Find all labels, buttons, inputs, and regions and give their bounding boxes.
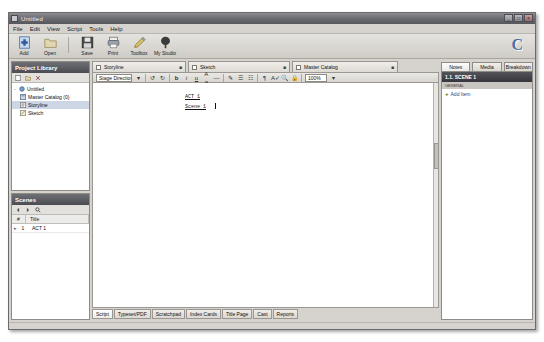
toolbar-separator-4 — [223, 74, 224, 82]
toolbar-add-label: Add — [20, 50, 29, 56]
tab-cast[interactable]: Cast — [253, 309, 271, 319]
bold-icon[interactable]: b — [173, 74, 180, 82]
align-left-icon[interactable]: ☰ — [237, 74, 244, 82]
project-library-panel: Project Library - Untitled Master Catalo… — [11, 61, 90, 191]
underline-icon[interactable]: u — [193, 74, 200, 82]
menu-item-tools[interactable]: Tools — [89, 26, 103, 32]
project-tree[interactable]: - Untitled Master Catalog (0) Storyline — [12, 83, 89, 190]
window-title: Untitled — [21, 16, 43, 22]
tab-storyline-label: Storyline — [104, 64, 123, 70]
tree-label-untitled: Untitled — [27, 86, 44, 92]
redo-icon[interactable]: ↻ — [159, 74, 166, 82]
tree-node-master-catalog[interactable]: Master Catalog (0) — [12, 93, 89, 101]
toolbar-open-button[interactable]: Open — [40, 36, 60, 56]
spell-check-icon[interactable]: A✓ — [271, 74, 278, 82]
tab-storyline-close-icon[interactable]: ■ — [179, 64, 182, 70]
scenes-col-title[interactable]: Title — [26, 215, 89, 223]
tab-storyline[interactable]: Storyline ■ — [92, 61, 186, 72]
folder-icon[interactable] — [25, 75, 31, 81]
search-icon[interactable] — [35, 207, 41, 213]
tab-reports[interactable]: Reports — [273, 309, 299, 319]
delete-icon[interactable] — [35, 75, 41, 81]
toolbar-separator-2 — [145, 74, 146, 82]
tree-node-untitled[interactable]: - Untitled — [12, 85, 89, 93]
toolbar-mystudio-label: My Studio — [154, 50, 176, 56]
row-title: ACT 1 — [28, 224, 89, 232]
toolbar-separator-5 — [257, 74, 258, 82]
maximize-button[interactable]: □ — [514, 14, 523, 22]
title-bar[interactable]: Untitled _ □ × — [9, 13, 535, 24]
align-center-icon[interactable]: ☷ — [247, 74, 254, 82]
editor-area: Storyline ■ Sketch ■ Master Catalog ■ — [91, 59, 440, 322]
script-page[interactable]: ACT 1 Scene 1 — [92, 83, 439, 308]
tree-node-sketch[interactable]: Sketch — [12, 109, 89, 117]
editor-scrollbar-thumb[interactable] — [434, 143, 439, 169]
inspector-scene-title: 1.1. SCENE 1 — [442, 72, 532, 82]
next-icon[interactable] — [25, 207, 31, 213]
format-toolbar: Stage Direction ▾ ↺ ↻ b i u A a — ✎ ☰ ☷ … — [92, 72, 439, 83]
lock-icon[interactable]: 🔒 — [291, 74, 298, 82]
sketch-icon — [20, 110, 26, 116]
minimize-button[interactable]: _ — [504, 14, 513, 22]
storyline-icon — [20, 102, 26, 108]
undo-icon[interactable]: ↺ — [149, 74, 156, 82]
application-window: Untitled _ □ × File Edit View Script Too… — [8, 12, 536, 330]
toolbar-print-button[interactable]: Print — [103, 36, 123, 56]
toolbar-separator-6 — [301, 74, 302, 82]
paragraph-icon[interactable]: ¶ — [261, 74, 268, 82]
tab-notes[interactable]: Notes — [441, 62, 470, 71]
status-bar — [9, 322, 535, 329]
tab-script[interactable]: Script — [92, 309, 113, 319]
scenes-grid-header: # Title — [12, 215, 89, 224]
zoom-select[interactable]: 100% — [305, 74, 327, 82]
script-line-act[interactable]: ACT 1 — [185, 94, 200, 100]
project-icon — [19, 86, 25, 92]
tab-breakdown[interactable]: Breakdown — [504, 62, 533, 71]
toolbar-print-label: Print — [108, 50, 118, 56]
menu-item-script[interactable]: Script — [67, 26, 82, 32]
strikethrough-icon[interactable]: — — [213, 74, 220, 82]
tab-scratchpad[interactable]: Scratchpad — [152, 309, 185, 319]
script-line-scene[interactable]: Scene 1 — [185, 104, 206, 110]
toolbar-toolbox-button[interactable]: Toolbox — [129, 36, 149, 56]
tab-sketch-close-icon[interactable]: ■ — [283, 64, 286, 70]
close-button[interactable]: × — [524, 14, 533, 22]
menu-item-edit[interactable]: Edit — [30, 26, 40, 32]
menu-item-file[interactable]: File — [13, 26, 23, 32]
plus-icon: + — [445, 91, 449, 97]
catalog-icon — [20, 94, 26, 100]
tab-master-catalog-close-icon[interactable]: ■ — [391, 64, 394, 70]
tab-media[interactable]: Media — [472, 62, 501, 71]
toolbar-mystudio-button[interactable]: My Studio — [155, 36, 175, 56]
new-icon[interactable] — [15, 75, 21, 81]
prev-icon[interactable] — [15, 207, 21, 213]
workspace: Project Library - Untitled Master Catalo… — [9, 59, 535, 322]
project-library-title: Project Library — [12, 62, 89, 73]
add-icon — [18, 36, 31, 49]
inspector-section-label: GENERAL — [442, 82, 532, 89]
menu-item-view[interactable]: View — [47, 26, 60, 32]
italic-icon[interactable]: i — [183, 74, 190, 82]
zoom-chevron-down-icon[interactable]: ▾ — [330, 74, 337, 82]
tab-title-page[interactable]: Title Page — [222, 309, 252, 319]
highlight-icon[interactable]: ✎ — [227, 74, 234, 82]
tab-index-cards[interactable]: Index Cards — [186, 309, 221, 319]
tree-node-storyline[interactable]: Storyline — [12, 101, 89, 109]
menu-item-help[interactable]: Help — [110, 26, 122, 32]
toolbar-save-button[interactable]: Save — [77, 36, 97, 56]
toolbar-add-button[interactable]: Add — [14, 36, 34, 56]
tab-master-catalog[interactable]: Master Catalog ■ — [292, 61, 398, 72]
main-toolbar: Add Open Save Print — [9, 34, 535, 59]
catalog-icon — [296, 65, 301, 70]
app-icon — [11, 15, 18, 22]
scenes-col-number[interactable]: # — [12, 215, 26, 223]
inspector-dock: Notes Media Breakdown 1.1. SCENE 1 GENER… — [440, 59, 535, 322]
find-icon[interactable]: 🔍 — [281, 74, 288, 82]
toolbar-save-label: Save — [81, 50, 92, 56]
add-item-button[interactable]: + Add Item — [442, 89, 532, 98]
tab-typeset-pdf[interactable]: Typeset/PDF — [114, 309, 151, 319]
paragraph-style-select[interactable]: Stage Direction — [96, 74, 132, 82]
chevron-down-icon[interactable]: ▾ — [135, 74, 142, 82]
table-row[interactable]: ▸ 1 ACT 1 — [12, 224, 89, 233]
editor-scrollbar[interactable] — [433, 83, 438, 307]
